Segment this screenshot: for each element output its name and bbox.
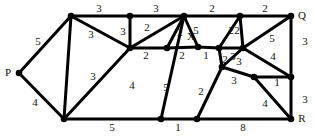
graph-edges xyxy=(19,16,291,119)
graph-node xyxy=(127,13,134,20)
edge-weight-label: 3 xyxy=(90,70,96,82)
edge-weight-label: 2 xyxy=(198,85,204,97)
graph-node-q xyxy=(288,13,295,20)
node-label-x: X xyxy=(187,30,195,42)
graph-node xyxy=(237,13,244,20)
edge-weight-label: 3 xyxy=(302,93,308,105)
graph-node xyxy=(158,116,165,123)
edge-weight-label: 2 xyxy=(234,24,240,36)
edge-weight-label: 5 xyxy=(163,81,169,93)
graph-edge-inner-highlight xyxy=(64,16,71,119)
edge-weight-label: 1 xyxy=(203,49,209,61)
graph-node-x xyxy=(195,44,202,51)
graph-node xyxy=(61,116,68,123)
graph-edge-inner-highlight xyxy=(19,16,71,73)
graph-edge-inner-highlight xyxy=(243,16,291,48)
graph-edge-inner-highlight xyxy=(19,73,64,119)
graph-edge-inner-highlight xyxy=(243,48,291,77)
graph-node xyxy=(164,45,171,52)
edge-weight-label: 5 xyxy=(109,121,115,133)
edge-weight-label: 1 xyxy=(175,121,181,133)
node-label-r: R xyxy=(298,112,306,124)
graph-node xyxy=(251,74,258,81)
graph-node xyxy=(181,13,188,20)
edge-weight-label: 3 xyxy=(153,2,159,14)
edge-weight-label: 3 xyxy=(231,74,237,86)
edge-weight-label: 1 xyxy=(274,76,280,88)
edge-weight-label: 2 xyxy=(222,53,228,65)
graph-node xyxy=(288,74,295,81)
graph-node xyxy=(219,64,226,71)
graph-node xyxy=(194,116,201,123)
graph-edge-inner-highlight xyxy=(222,67,254,77)
edge-weight-label: 2 xyxy=(228,24,234,36)
edge-weight-label: 3 xyxy=(88,28,94,40)
edge-weight-label: 3 xyxy=(236,55,242,67)
edge-weight-label: 3 xyxy=(120,25,126,37)
edge-weight-label: 2 xyxy=(262,2,268,14)
graph-node-p xyxy=(16,70,23,77)
edge-weight-label: 4 xyxy=(32,96,38,108)
graph-node xyxy=(127,45,134,52)
edge-weight-label: 8 xyxy=(240,121,246,133)
edge-weight-label: 2 xyxy=(179,49,185,61)
edge-weight-label: 4 xyxy=(262,97,268,109)
edge-weight-label: 5 xyxy=(35,35,41,47)
graph-edge-inner-highlight xyxy=(254,77,291,119)
node-label-p: P xyxy=(5,66,11,78)
edge-weight-label: 2 xyxy=(143,49,149,61)
graph-node xyxy=(240,45,247,52)
graph-node-r xyxy=(288,116,295,123)
edge-weight-label: 5 xyxy=(269,32,275,44)
edge-weight-label: 2 xyxy=(209,2,215,14)
graph-node xyxy=(68,13,75,20)
edge-weight-label: 4 xyxy=(270,50,276,62)
edge-weight-label: 2 xyxy=(144,21,150,33)
graph-node xyxy=(216,45,223,52)
edge-weight-label: 4 xyxy=(129,79,135,91)
edge-weight-label: 3 xyxy=(96,2,102,14)
edge-weight-labels: 543333322422552151282233322541433 xyxy=(32,2,308,133)
weighted-graph-figure: 543333322422552151282233322541433 PXQR xyxy=(0,0,315,136)
node-label-q: Q xyxy=(298,9,306,21)
edge-weight-label: 2 xyxy=(177,26,183,38)
graph-canvas: 543333322422552151282233322541433 PXQR xyxy=(0,0,315,136)
edge-weight-label: 3 xyxy=(302,35,308,47)
graph-edge-inner-highlight xyxy=(64,48,130,119)
